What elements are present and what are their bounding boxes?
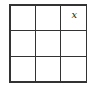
grid-cell-r2-c3 <box>60 30 86 57</box>
grid-cell-r3-c3 <box>60 56 86 83</box>
grid-cell-r2-c1 <box>10 30 36 57</box>
grid-cell-r3-c1 <box>10 56 36 83</box>
grid-cell-r1-c3: x <box>60 5 86 32</box>
grid-cell-r1-c2 <box>35 5 61 32</box>
grid-cell-r2-c2 <box>35 30 61 57</box>
grid-cell-r3-c2 <box>35 56 61 83</box>
three-by-three-grid: x <box>9 4 87 83</box>
cell-label-x: x <box>72 10 78 20</box>
grid-cell-r1-c1 <box>10 5 36 32</box>
